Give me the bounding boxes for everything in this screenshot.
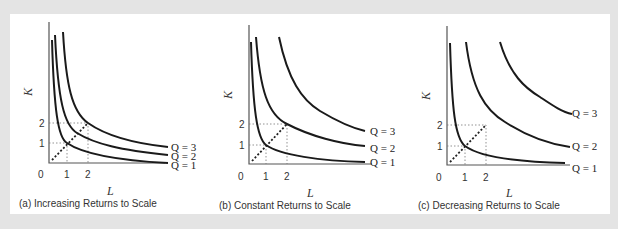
- caption: (c) Decreasing Returns to Scale: [418, 200, 560, 211]
- isoquant-q2: [256, 37, 365, 146]
- caption: (a) Increasing Returns to Scale: [19, 198, 157, 209]
- x-tick-2: 2: [85, 169, 91, 180]
- y-axis-label: K: [21, 87, 35, 97]
- isoquant-q3: [500, 42, 572, 114]
- panel-b: Q = 3 Q = 2 Q = 1 0 1 2 1 2 L K (b) Cons…: [219, 25, 396, 211]
- y-tick-2: 2: [239, 119, 245, 130]
- expansion-ray: [52, 123, 88, 160]
- returns-to-scale-figure: Q = 3 Q = 2 Q = 1 0 1 2 1 2 L K (a) Incr…: [0, 0, 618, 229]
- isoquant-q3: [279, 37, 365, 131]
- y-axis-label: K: [221, 90, 235, 100]
- y-tick-1: 1: [239, 140, 245, 151]
- x-tick-2: 2: [483, 172, 489, 183]
- y-tick-1: 1: [437, 141, 443, 152]
- x-axis-label: L: [505, 186, 513, 200]
- x-axis-label: L: [306, 186, 314, 200]
- expansion-ray: [252, 124, 287, 161]
- x-tick-0: 0: [38, 169, 44, 180]
- label-q2: Q = 2: [572, 140, 597, 152]
- label-q1: Q = 1: [572, 162, 597, 174]
- label-q3: Q = 3: [572, 107, 598, 119]
- isoquant-q3: [63, 32, 168, 147]
- y-tick-2: 2: [39, 118, 45, 129]
- x-tick-1: 1: [462, 172, 468, 183]
- x-tick-0: 0: [436, 172, 442, 183]
- expansion-ray: [450, 125, 486, 162]
- axes: [249, 25, 372, 164]
- y-axis-label: K: [419, 91, 433, 101]
- label-q1: Q = 1: [171, 159, 196, 171]
- label-q3: Q = 3: [370, 125, 396, 137]
- isoquant-q2: [466, 42, 570, 147]
- caption: (b) Constant Returns to Scale: [219, 200, 351, 211]
- x-axis-label: L: [106, 184, 114, 198]
- x-tick-1: 1: [64, 169, 70, 180]
- x-tick-0: 0: [238, 171, 244, 182]
- y-tick-2: 2: [437, 120, 443, 131]
- panel-c: Q = 3 Q = 2 Q = 1 0 1 2 1 2 L K (c) Decr…: [418, 26, 598, 211]
- label-q1: Q = 1: [370, 156, 395, 168]
- y-tick-1: 1: [39, 138, 45, 149]
- x-tick-1: 1: [263, 171, 269, 182]
- x-tick-2: 2: [284, 171, 290, 182]
- panel-a: Q = 3 Q = 2 Q = 1 0 1 2 1 2 L K (a) Incr…: [19, 22, 197, 209]
- label-q2: Q = 2: [370, 142, 395, 154]
